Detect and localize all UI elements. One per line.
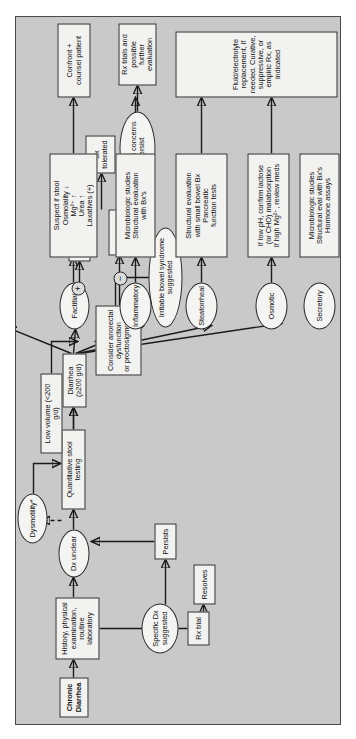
node-fluid-electrolyte-replacement[interactable]: Fluid/electrolyte replacement, if needed…: [175, 31, 337, 97]
node-quantitative-stool-testing[interactable]: Quantitative stool testing: [61, 429, 85, 509]
node-diarrhea-200[interactable]: Diarrhea (≥200 g/d): [62, 353, 86, 407]
node-secretory[interactable]: Secretory: [303, 282, 335, 329]
node-confront-counsel-patient[interactable]: Confront + counsel patient: [57, 23, 90, 97]
node-persists[interactable]: Persists: [154, 523, 176, 559]
node-osmotic[interactable]: Osmotic: [255, 282, 287, 329]
node-specific-dx[interactable]: Specific Dx suggested: [141, 603, 178, 653]
node-microbiologic-hormone-assays[interactable]: Microbiologic studies Structural eval wi…: [299, 153, 339, 257]
node-suspect-if-stool[interactable]: Suspect if stool Osmolality ↓ Mg²⁺ ↑ Ure…: [49, 153, 97, 257]
figure-frame: Chronic Diarrhea History, physical exami…: [15, 16, 341, 725]
figure-screenshot: Chronic Diarrhea History, physical exami…: [0, 0, 356, 739]
node-history[interactable]: History, physical examination, routine l…: [55, 597, 99, 659]
node-resolves[interactable]: Resolves: [193, 564, 215, 604]
node-rx-trials-further-evaluation[interactable]: Rx trials and possible further evaluatio…: [118, 23, 156, 85]
node-dx-unclear[interactable]: Dx unclear: [58, 529, 89, 577]
node-chronic-diarrhea[interactable]: Chronic Diarrhea: [59, 677, 88, 717]
node-low-volume[interactable]: Low volume (<200 g/d): [40, 373, 62, 453]
node-dysmotility[interactable]: Dysmotility*: [17, 493, 47, 543]
node-rx-trial[interactable]: Rx trial: [187, 611, 209, 645]
flowchart-canvas: Chronic Diarrhea History, physical exami…: [15, 16, 341, 725]
node-steatorrheal[interactable]: Steatorrheal: [185, 282, 217, 329]
plus-sign-badge: +: [71, 281, 85, 295]
node-inflammatory[interactable]: Inflammatory: [119, 282, 151, 329]
node-if-low-ph-lactose[interactable]: If low pH, confirm lactose (or CHO) mala…: [247, 153, 289, 257]
node-microbiologic-structural-bx[interactable]: Microbiologic studies Structural evaluat…: [115, 153, 155, 257]
minus-sign-badge: −: [113, 271, 127, 285]
node-structural-eval-small-bowel[interactable]: Structural evaluation with small bowel B…: [175, 153, 227, 257]
